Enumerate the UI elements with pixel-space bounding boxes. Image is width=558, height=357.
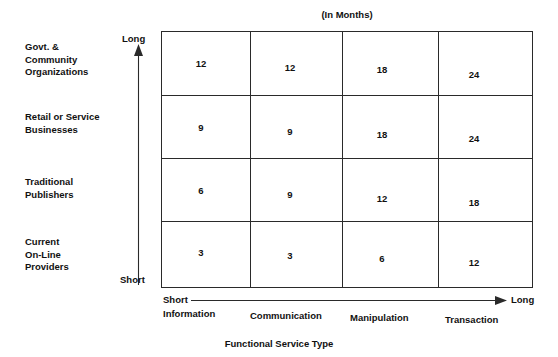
row-label-line: Current — [25, 236, 125, 249]
row-label-line: Publishers — [25, 189, 125, 202]
column-label-transaction: Transaction — [445, 314, 498, 325]
column-label-information: Information — [163, 308, 215, 319]
grid-vline-2 — [342, 31, 343, 288]
cell-value: 9 — [258, 126, 322, 137]
row-label-line: Businesses — [25, 124, 125, 137]
cell-value: 24 — [442, 69, 506, 80]
row-label-retail-or-service-businesses: Retail or Service Businesses — [25, 111, 125, 136]
row-label-current-online-providers: Current On-Line Providers — [25, 236, 125, 274]
row-label-line: Retail or Service — [25, 111, 125, 124]
cell-value: 12 — [442, 257, 506, 268]
cell-value: 24 — [442, 133, 506, 144]
row-label-traditional-publishers: Traditional Publishers — [25, 176, 125, 201]
cell-value: 18 — [350, 64, 414, 75]
grid-hline-2 — [161, 158, 533, 159]
cell-value: 9 — [258, 189, 322, 200]
grid-hline-3 — [161, 221, 533, 222]
x-axis-high-label: Long — [511, 294, 534, 305]
row-label-line: Govt. & — [25, 41, 125, 54]
row-label-line: Community — [25, 54, 125, 67]
y-axis-arrowhead — [134, 44, 143, 56]
cell-value: 12 — [350, 193, 414, 204]
units-title: (In Months) — [161, 9, 533, 20]
cell-value: 6 — [169, 185, 233, 196]
cell-value: 12 — [169, 58, 233, 69]
row-label-govt-community-organizations: Govt. & Community Organizations — [25, 41, 125, 79]
grid-hline-top — [161, 31, 533, 32]
cell-value: 3 — [258, 250, 322, 261]
cell-value: 12 — [258, 62, 322, 73]
matrix-grid: 12 12 18 24 9 9 18 24 6 9 12 18 3 3 6 12 — [161, 31, 533, 288]
column-label-manipulation: Manipulation — [350, 312, 409, 323]
grid-vline-right — [532, 31, 533, 288]
grid-vline-3 — [438, 31, 439, 288]
x-axis-arrowhead — [495, 296, 507, 305]
x-axis-low-label: Short — [163, 294, 188, 305]
cell-value: 3 — [169, 247, 233, 258]
figure-canvas: (In Months) Govt. & Community Organizati… — [0, 0, 558, 357]
grid-hline-bottom — [161, 287, 533, 288]
grid-hline-1 — [161, 95, 533, 96]
x-axis-caption: Functional Service Type — [0, 338, 558, 349]
grid-vline-left — [161, 31, 162, 288]
grid-vline-1 — [250, 31, 251, 288]
row-label-line: Providers — [25, 261, 125, 274]
row-label-line: On-Line — [25, 249, 125, 262]
row-label-line: Traditional — [25, 176, 125, 189]
cell-value: 6 — [350, 253, 414, 264]
row-label-line: Organizations — [25, 66, 125, 79]
y-axis-low-label: Short — [120, 274, 145, 285]
cell-value: 18 — [350, 129, 414, 140]
cell-value: 9 — [169, 122, 233, 133]
y-axis-high-label: Long — [122, 33, 145, 44]
column-label-communication: Communication — [250, 310, 322, 321]
cell-value: 18 — [442, 197, 506, 208]
